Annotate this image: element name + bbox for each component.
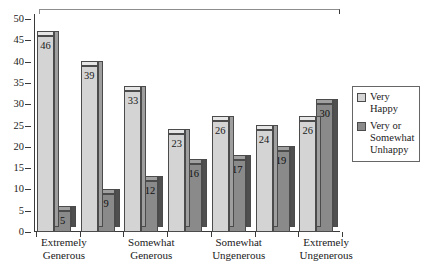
y-axis-tick-mark	[25, 189, 31, 190]
bar-chart: 05101520253035404550 4653993312231626172…	[0, 0, 427, 274]
plot-area: 46539933122316261724192630	[34, 14, 340, 232]
legend-item-very-happy: Very Happy	[357, 91, 415, 115]
x-axis-category-label-line2: Generous	[106, 249, 196, 262]
bar-very-happy-group-2: 39	[81, 66, 98, 232]
bar-value-label: 23	[168, 138, 185, 149]
bar-front-face	[124, 91, 141, 232]
legend-label-very-or-somewhat-unhappy: Very or Somewhat Unhappy	[370, 120, 415, 156]
legend: Very Happy Very or Somewhat Unhappy	[352, 86, 420, 162]
bar-side-face	[141, 86, 146, 227]
bar-value-label: 24	[256, 134, 273, 145]
bar-value-label: 39	[81, 70, 98, 81]
bar-side-face	[333, 99, 338, 227]
y-axis-tick-label: 15	[14, 163, 25, 173]
legend-item-very-or-somewhat-unhappy: Very or Somewhat Unhappy	[357, 120, 415, 156]
x-axis-category-label-line2: Ungenerous	[194, 249, 284, 262]
y-axis-tick-mark	[25, 104, 31, 105]
bar-side-face	[71, 206, 76, 227]
y-axis-tick-mark	[25, 211, 31, 212]
bar-very-happy-group-3: 33	[124, 91, 141, 232]
x-axis-labels: ExtremelyGenerousSomewhatGenerousSomewha…	[0, 236, 427, 274]
x-axis-category-label: ExtremelyGenerous	[19, 236, 109, 262]
legend-swatch-icon-very-or-somewhat-unhappy	[357, 122, 366, 131]
bar-value-label: 33	[124, 95, 141, 106]
x-axis-category-label-line1: Somewhat	[106, 236, 196, 249]
y-axis-tick-label: 30	[14, 99, 25, 109]
x-axis-category-label-line2: Ungenerous	[281, 249, 371, 262]
y-axis-tick-mark	[25, 40, 31, 41]
bar-side-face	[202, 159, 207, 227]
bar-side-face	[98, 61, 103, 227]
y-axis-tick-label: 20	[14, 142, 25, 152]
bar-side-face	[229, 116, 234, 227]
bar-front-face	[212, 121, 229, 232]
bar-value-label: 46	[37, 40, 54, 51]
x-axis-category-label: SomewhatGenerous	[106, 236, 196, 262]
bar-side-face	[158, 176, 163, 227]
bar-side-face	[290, 146, 295, 227]
x-axis-category-label-line1: Somewhat	[194, 236, 284, 249]
bar-very-happy-group-7: 26	[299, 121, 316, 232]
bar-value-label: 26	[212, 125, 229, 136]
bar-side-face	[246, 155, 251, 227]
y-axis-tick-label: 50	[14, 14, 25, 24]
y-axis-tick-mark	[25, 83, 31, 84]
legend-label-very-happy: Very Happy	[370, 91, 415, 115]
y-axis-tick-mark	[25, 126, 31, 127]
y-axis-tick-label: 10	[14, 184, 25, 194]
bar-value-label: 26	[299, 125, 316, 136]
bar-very-happy-group-6: 24	[256, 130, 273, 232]
bar-side-face	[273, 125, 278, 227]
y-axis-tick-mark	[25, 62, 31, 63]
bar-side-face	[54, 31, 59, 227]
y-axis-tick-label: 45	[14, 35, 25, 45]
y-axis-tick-label: 5	[19, 206, 24, 216]
y-axis-tick-mark	[25, 19, 31, 20]
bar-very-happy-group-5: 26	[212, 121, 229, 232]
bar-side-face	[185, 129, 190, 227]
bar-very-happy-group-4: 23	[168, 134, 185, 232]
y-axis-tick-mark	[25, 232, 31, 233]
bar-front-face	[81, 66, 98, 232]
legend-swatch-icon-very-happy	[357, 93, 366, 102]
x-axis-category-label: ExtremelyUngenerous	[281, 236, 371, 262]
y-axis-tick-mark	[25, 147, 31, 148]
bar-front-face	[256, 130, 273, 232]
bar-very-happy-group-1: 46	[37, 36, 54, 232]
bar-series-group: 46539933122316261724192630	[34, 14, 340, 232]
x-axis-category-label: SomewhatUngenerous	[194, 236, 284, 262]
y-axis-tick-label: 35	[14, 78, 25, 88]
x-axis-category-label-line1: Extremely	[19, 236, 109, 249]
y-axis-tick-mark	[25, 168, 31, 169]
bar-front-face	[37, 36, 54, 232]
bar-side-face	[115, 189, 120, 227]
y-axis: 05101520253035404550	[0, 0, 34, 232]
bar-side-face	[316, 116, 321, 227]
y-axis-tick-label: 40	[14, 57, 25, 67]
x-axis-category-label-line2: Generous	[19, 249, 109, 262]
bar-front-face	[299, 121, 316, 232]
x-axis-category-label-line1: Extremely	[281, 236, 371, 249]
y-axis-tick-label: 25	[14, 121, 25, 131]
